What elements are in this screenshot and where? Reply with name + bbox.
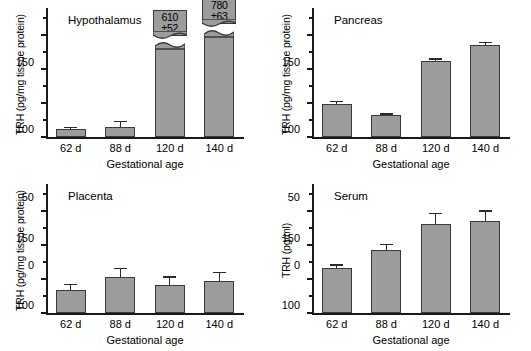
error-cap-pancreas-2 [429,58,442,59]
x-tick-label-0: 62 d [326,142,347,154]
y-axis-line [46,184,48,313]
bar-hypothalamus-2 [155,47,185,137]
y-axis-label: TRH (pg/ml) [280,183,294,318]
error-cap-pancreas-3 [479,42,492,43]
x-tick-label-2: 120 d [422,318,450,330]
plot-area: 050100150Hypothalamus62 d88 d120 d140 d6… [46,8,244,137]
y-tick-major: 150 [307,210,312,211]
y-tick-major: 150 [41,34,46,35]
x-tick-label-2: 120 d [422,142,450,154]
bar-serum-2 [421,224,451,313]
y-axis-line [312,184,314,313]
error-bar-placenta-1 [120,268,121,278]
y-tick-major: 50 [41,278,46,279]
x-axis-line [46,313,244,315]
error-cap-serum-3 [479,210,492,211]
y-tick-minor [309,193,312,194]
y-tick-major: 100 [41,244,46,245]
x-axis-label: Gestational age [46,158,244,170]
x-tick-label-2: 120 d [156,318,184,330]
y-tick-minor [43,85,46,86]
y-tick-major: 150 [307,34,312,35]
y-axis-label: TRH (pg/mg tissue protein) [280,7,294,142]
x-tick-label-3: 140 d [205,318,233,330]
y-tick-major: 100 [307,244,312,245]
y-tick-label: 100 [16,300,34,311]
y-tick-major: 50 [307,278,312,279]
bar-placenta-0 [56,290,86,313]
y-tick-minor [309,51,312,52]
error-bar-serum-2 [435,213,436,225]
annotation-error: ±52 [154,23,186,34]
y-tick-major: 50 [41,102,46,103]
error-cap-serum-1 [380,244,393,245]
y-tick-major: 0 [307,136,312,137]
figure-trh-gestational-age: TRH (pg/mg tissue protein)050100150Hypot… [0,0,531,351]
plot-area: 050100150Pancreas62 d88 d120 d140 dGesta… [312,8,510,137]
x-axis-line [312,313,510,315]
x-tick-label-3: 140 d [471,142,499,154]
panel-title: Serum [334,190,368,202]
panel-title: Hypothalamus [68,14,142,26]
x-tick-label-2: 120 d [156,142,184,154]
panel-title: Pancreas [334,14,383,26]
y-tick-minor [309,295,312,296]
value-annotation-hypothalamus-2: 610±52 [153,10,187,36]
y-tick-minor [43,119,46,120]
y-tick-major: 100 [307,68,312,69]
y-tick-minor [309,17,312,18]
bar-serum-0 [322,268,352,313]
annotation-error: ±63 [203,11,235,22]
x-axis-label: Gestational age [312,334,510,346]
x-tick-label-3: 140 d [205,142,233,154]
y-tick-major: 150 [41,210,46,211]
x-tick-label-0: 62 d [60,142,81,154]
error-cap-hypothalamus-1 [114,121,127,122]
x-tick-label-0: 62 d [326,318,347,330]
error-cap-pancreas-1 [380,113,393,114]
bar-hypothalamus-1 [105,127,135,137]
y-axis-label: TRH (pg/mg tissue protein) [14,7,28,142]
panel-hypothalamus: TRH (pg/mg tissue protein)050100150Hypot… [0,0,265,175]
x-axis-label: Gestational age [46,334,244,346]
error-cap-placenta-2 [163,276,176,277]
plot-area: 050100150Serum62 d88 d120 d140 dGestatio… [312,184,510,313]
y-tick-label: 100 [16,124,34,135]
error-cap-placenta-0 [64,284,77,285]
y-tick-major: 0 [41,136,46,137]
bar-placenta-3 [204,281,234,313]
bar-hypothalamus-0 [56,129,86,137]
bar-serum-1 [371,250,401,313]
y-tick-minor [309,85,312,86]
x-tick-label-1: 88 d [376,142,397,154]
y-tick-label: 100 [282,300,300,311]
y-tick-major: 0 [307,312,312,313]
bar-pancreas-0 [322,104,352,137]
error-cap-placenta-3 [213,272,226,273]
error-cap-serum-2 [429,213,442,214]
y-tick-minor [309,119,312,120]
y-tick-label: 150 [282,232,300,243]
x-axis-label: Gestational age [312,158,510,170]
error-bar-serum-3 [485,210,486,220]
bar-serum-3 [470,221,500,313]
y-axis-line [46,8,48,137]
error-cap-serum-0 [330,264,343,265]
x-tick-label-1: 88 d [376,318,397,330]
y-tick-label: 150 [282,56,300,67]
error-cap-placenta-1 [114,268,127,269]
y-tick-minor [43,17,46,18]
y-tick-minor [43,193,46,194]
y-tick-minor [309,227,312,228]
bar-pancreas-1 [371,115,401,137]
error-bar-placenta-3 [219,272,220,282]
x-tick-label-0: 62 d [60,318,81,330]
y-tick-major: 0 [41,312,46,313]
panel-pancreas: TRH (pg/mg tissue protein)050100150Pancr… [266,0,531,175]
x-tick-label-1: 88 d [110,318,131,330]
y-tick-label: 150 [16,232,34,243]
x-tick-label-1: 88 d [110,142,131,154]
value-annotation-hypothalamus-3: 780±63 [202,0,236,24]
x-axis-line [46,137,244,139]
y-tick-minor [43,227,46,228]
